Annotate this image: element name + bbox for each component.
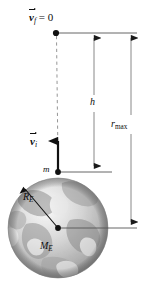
- initial-velocity-label: vi: [30, 136, 37, 149]
- launch-point-dot: [55, 169, 61, 175]
- mass-label: m: [43, 165, 50, 174]
- height-label: h: [90, 97, 95, 107]
- final-velocity-label: vf = 0: [29, 12, 53, 25]
- figure-canvas: vf = 0 h rmax vi m RE ME: [0, 0, 150, 289]
- max-radius-label: rmax: [111, 119, 127, 131]
- earth-mass-label: ME: [40, 241, 53, 253]
- earth-radius-label: RE: [23, 192, 34, 204]
- diagram-vector-layer: [0, 0, 150, 289]
- apex-point-dot: [53, 30, 59, 36]
- earth-center-dot: [55, 225, 61, 231]
